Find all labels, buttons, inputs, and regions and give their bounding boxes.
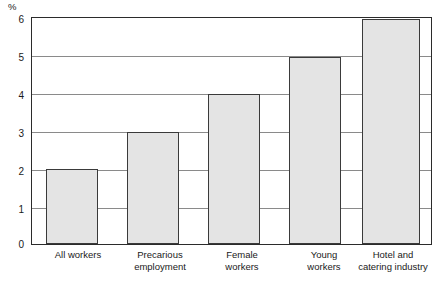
x-label-line-2: catering industry	[343, 261, 442, 273]
bar-4	[362, 19, 420, 244]
x-label-line-2: workers	[195, 261, 289, 273]
y-tick-label-5: 5	[2, 53, 24, 63]
y-tick-label-3: 3	[2, 129, 24, 139]
y-tick-label-2: 2	[2, 167, 24, 177]
x-label-line-1: All workers	[31, 249, 125, 261]
y-tick-label-6: 6	[2, 15, 24, 25]
x-label-line-1: Hotel and	[343, 249, 442, 261]
bar-2	[208, 94, 260, 244]
x-label-precarious-employment: Precarious employment	[113, 249, 207, 272]
x-axis-labels: All workers Precarious employment Female…	[31, 249, 432, 283]
x-label-all-workers: All workers	[31, 249, 125, 261]
y-tick-label-1: 1	[2, 205, 24, 215]
x-label-line-2: employment	[113, 261, 207, 273]
bar-0	[46, 169, 98, 244]
y-tick-label-0: 0	[2, 240, 24, 250]
bars-layer	[32, 18, 431, 244]
bar-3	[289, 57, 341, 245]
plot-area	[31, 17, 432, 245]
bar-chart: % 6 5 4 3 2 1 0 All workers Precarious e…	[0, 0, 442, 286]
x-label-line-1: Female	[195, 249, 289, 261]
bar-1	[127, 132, 179, 245]
y-tick-label-4: 4	[2, 91, 24, 101]
x-label-hotel-catering-industry: Hotel and catering industry	[343, 249, 442, 272]
x-label-line-1: Precarious	[113, 249, 207, 261]
y-axis-unit-label: %	[8, 2, 16, 12]
x-label-female-workers: Female workers	[195, 249, 289, 272]
